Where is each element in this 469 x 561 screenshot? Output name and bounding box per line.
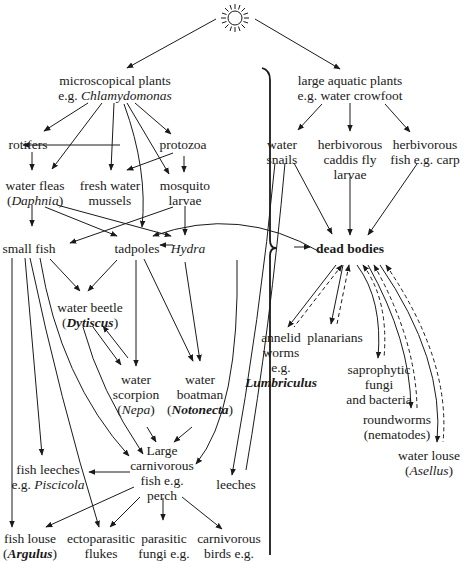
node-water-scorpion: waterscorpion (Nepa) <box>113 372 160 417</box>
node-carnivorous-birds: carnivorousbirds e.g. <box>197 531 261 561</box>
node-leeches: leeches <box>216 477 256 492</box>
node-large-carnivorous-fish: Largecarnivorousfish e.g.perch <box>130 443 194 503</box>
node-annelid-worms: annelidwormse.g. Lumbriculus <box>245 330 317 390</box>
node-water-louse: water louse (Asellus) <box>398 448 460 478</box>
node-large-aquatic-plants: large aquatic plantse.g. water crowfoot <box>298 73 403 103</box>
sun-icon <box>221 4 249 32</box>
node-water-beetle: water beetle (Dytiscus) <box>57 300 123 330</box>
node-dead-bodies: dead bodies <box>316 241 384 256</box>
node-small-fish: small fish <box>3 241 56 256</box>
node-water-snails: watersnails <box>267 137 298 167</box>
node-herbivorous-fish: herbivorousfish e.g. carp <box>390 137 460 167</box>
node-protozoa: protozoa <box>159 137 206 152</box>
node-rotifers: rotifers <box>9 137 48 152</box>
node-hydra: Hydra <box>171 241 206 256</box>
node-saprophytic-fungi: saprophyticfungiand bacteria <box>346 362 412 407</box>
node-tadpoles: tadpoles <box>115 241 160 256</box>
node-ectoparasitic-flukes: ectoparasiticflukes <box>67 531 135 561</box>
node-fish-louse: fish louse (Argulus) <box>3 531 57 561</box>
node-water-boatman: waterboatman (Notonecta) <box>167 372 233 417</box>
node-roundworms: roundworms(nematodes) <box>363 412 431 442</box>
node-planarians: planarians <box>307 330 362 345</box>
node-mosquito-larvae: mosquitolarvae <box>160 178 210 208</box>
node-fish-leeches: fish leeches e.g. Piscicola <box>11 462 84 492</box>
node-microscopical-plants: microscopical plants e.g. Chlamydomonas <box>58 73 172 103</box>
node-caddis-fly-larvae: herbivorouscaddis flylarvae <box>318 137 383 182</box>
node-parasitic-fungi: parasiticfungi e.g. <box>138 531 189 561</box>
node-fresh-water-mussels: fresh watermussels <box>80 178 140 208</box>
node-water-fleas: water fleas (Daphnia) <box>6 178 65 208</box>
